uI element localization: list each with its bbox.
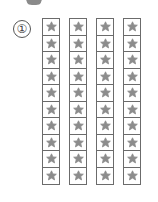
star-icon [46, 54, 57, 65]
star-icon [46, 170, 57, 181]
star-block [70, 85, 86, 102]
star-icon [73, 21, 84, 32]
star-icon [100, 71, 111, 82]
star-icon [127, 38, 138, 49]
star-icon [46, 137, 57, 148]
star-icon [127, 87, 138, 98]
star-icon [127, 153, 138, 164]
star-block [97, 168, 113, 185]
star-block [124, 69, 140, 86]
block-column [123, 18, 141, 185]
star-block [43, 135, 59, 152]
star-block [97, 85, 113, 102]
star-block [124, 36, 140, 53]
star-icon [100, 137, 111, 148]
star-icon [73, 54, 84, 65]
star-icon [73, 170, 84, 181]
star-icon [127, 104, 138, 115]
block-column [42, 18, 60, 185]
star-icon [100, 153, 111, 164]
star-icon [100, 21, 111, 32]
star-icon [73, 71, 84, 82]
star-block [97, 118, 113, 135]
star-block [70, 102, 86, 119]
star-block [70, 118, 86, 135]
star-block [124, 85, 140, 102]
star-icon [46, 87, 57, 98]
star-block [70, 52, 86, 69]
star-block [124, 52, 140, 69]
star-icon [100, 87, 111, 98]
star-block [70, 19, 86, 36]
star-block [97, 135, 113, 152]
star-block [70, 151, 86, 168]
star-icon [46, 21, 57, 32]
star-block [97, 36, 113, 53]
star-icon [100, 120, 111, 131]
star-block [124, 135, 140, 152]
star-block [97, 52, 113, 69]
star-block [43, 19, 59, 36]
star-icon [73, 104, 84, 115]
star-block [43, 102, 59, 119]
block-column [96, 18, 114, 185]
star-icon [46, 38, 57, 49]
star-block [97, 19, 113, 36]
star-block [43, 85, 59, 102]
star-icon [127, 120, 138, 131]
star-block [97, 102, 113, 119]
star-block [124, 102, 140, 119]
star-icon [100, 38, 111, 49]
star-block [43, 52, 59, 69]
star-icon [100, 54, 111, 65]
star-block [43, 69, 59, 86]
star-icon [127, 170, 138, 181]
star-block [124, 19, 140, 36]
star-icon [73, 38, 84, 49]
star-block [124, 151, 140, 168]
problem-number-label: ① [13, 20, 31, 38]
star-icon [127, 71, 138, 82]
star-block [70, 168, 86, 185]
star-block [70, 69, 86, 86]
star-block [124, 118, 140, 135]
star-icon [100, 170, 111, 181]
star-block [43, 151, 59, 168]
star-icon [46, 120, 57, 131]
star-icon [73, 120, 84, 131]
star-block [70, 135, 86, 152]
star-icon [73, 153, 84, 164]
star-icon [73, 137, 84, 148]
star-block [97, 69, 113, 86]
block-column [69, 18, 87, 185]
star-icon [46, 71, 57, 82]
star-icon [127, 21, 138, 32]
star-block [124, 168, 140, 185]
star-block [43, 168, 59, 185]
star-icon [46, 153, 57, 164]
star-block [70, 36, 86, 53]
star-icon [127, 54, 138, 65]
star-icon [100, 104, 111, 115]
star-icon [73, 87, 84, 98]
star-block [43, 36, 59, 53]
star-icon [127, 137, 138, 148]
star-icon [46, 104, 57, 115]
star-block [43, 118, 59, 135]
star-block [97, 151, 113, 168]
cropped-shape [24, 0, 44, 5]
